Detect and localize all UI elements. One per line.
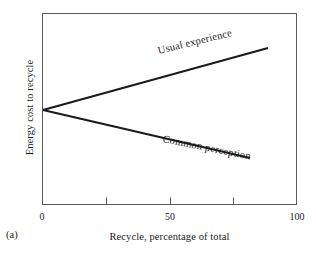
y-axis-label: Energy cost to recycle — [24, 18, 35, 198]
panel-caption: (a) — [6, 229, 18, 240]
x-tick-label-0: 0 — [25, 211, 59, 222]
figure-panel: Energy cost to recycle Recycle, percenta… — [0, 0, 316, 265]
x-tick-label-50: 50 — [153, 211, 187, 222]
x-tick-label-100: 100 — [280, 211, 314, 222]
x-axis-label: Recycle, percentage of total — [42, 231, 297, 242]
